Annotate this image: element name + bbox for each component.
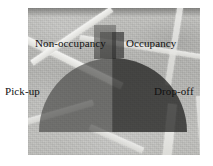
- label-occupancy: Occupancy: [126, 38, 176, 49]
- figure-root: Non-occupancy Occupancy Pick-up Drop-off: [0, 0, 213, 166]
- label-pick-up: Pick-up: [5, 86, 40, 97]
- kerb-shadow-marking: [28, 8, 200, 17]
- label-drop-off: Drop-off: [154, 86, 194, 97]
- road-photograph: [28, 8, 200, 155]
- label-non-occupancy: Non-occupancy: [35, 38, 106, 49]
